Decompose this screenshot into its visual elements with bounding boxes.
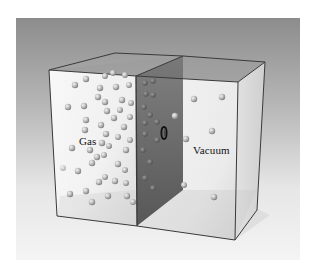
vacuum-label: Vacuum bbox=[193, 144, 230, 156]
gas-expansion-figure: Gas Vacuum bbox=[0, 0, 319, 274]
figure-canvas bbox=[0, 0, 319, 274]
gas-label: Gas bbox=[79, 135, 96, 147]
valve-stem-icon bbox=[164, 129, 166, 137]
